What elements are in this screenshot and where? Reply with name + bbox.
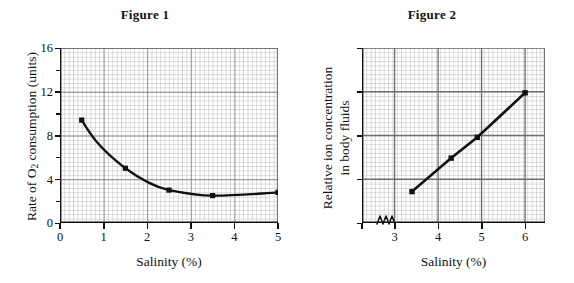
x-tickmark <box>147 223 149 229</box>
data-point <box>449 155 454 160</box>
figure-2: Figure 2 Relative ion concentration in b… <box>290 0 574 283</box>
figure-2-x-tick-5: 5 <box>478 230 484 245</box>
data-point <box>409 189 414 194</box>
data-point <box>275 190 278 195</box>
x-tickmark <box>361 223 363 229</box>
figure-1-y-tick-12: 12 <box>33 85 53 100</box>
y-label-part-2: consumption (units) <box>24 52 39 164</box>
y-tickmark <box>55 48 61 50</box>
figure-1-title: Figure 1 <box>0 7 290 23</box>
figure-2-x-tick-3: 3 <box>391 230 397 245</box>
figure-2-x-tick-4: 4 <box>435 230 441 245</box>
y-tickmark <box>56 70 61 71</box>
figure-2-plot-area <box>362 48 545 223</box>
figure-1-x-axis-label: Salinity (%) <box>60 254 278 270</box>
figure-2-graph-svg <box>362 48 545 223</box>
figure-2-y-axis-label: Relative ion concentration in body fluid… <box>320 48 354 228</box>
y-tickmark <box>357 48 363 50</box>
y-tickmark <box>55 179 61 181</box>
figure-1-y-tick-8: 8 <box>33 128 53 143</box>
figure-1-x-tick-4: 4 <box>231 230 237 245</box>
y-tickmark <box>55 135 61 137</box>
figure-1-y-tick-16: 16 <box>33 41 53 56</box>
figure-2-x-axis-label: Salinity (%) <box>362 254 545 270</box>
figure-pair-illustration: Figure 1 Rate of O2 consumption (units) <box>0 0 574 283</box>
figure-1-x-tick-1: 1 <box>100 230 106 245</box>
x-tickmark <box>394 223 396 229</box>
y-tickmark <box>357 135 363 137</box>
figure-2-title: Figure 2 <box>290 7 574 23</box>
x-tickmark <box>277 223 279 229</box>
figure-1-x-tick-5: 5 <box>275 230 281 245</box>
figure-1: Figure 1 Rate of O2 consumption (units) <box>0 0 290 283</box>
data-point <box>166 188 171 193</box>
x-tickmark <box>234 223 236 229</box>
figure-2-x-tick-6: 6 <box>522 230 528 245</box>
x-tickmark <box>481 223 483 229</box>
y-tickmark <box>357 91 363 93</box>
y-tickmark <box>56 157 61 158</box>
figure-1-x-tick-2: 2 <box>144 230 150 245</box>
x-tickmark <box>438 223 440 229</box>
y-label-line-2: in body fluids <box>337 101 352 176</box>
figure-1-x-tick-0: 0 <box>57 230 63 245</box>
x-tickmark <box>103 223 105 229</box>
figure-1-y-tick-4: 4 <box>33 172 53 187</box>
x-tickmark <box>190 223 192 229</box>
data-point <box>475 135 480 140</box>
y-tickmark <box>56 201 61 202</box>
figure-1-graph-svg <box>60 48 278 223</box>
y-tickmark <box>55 91 61 93</box>
y-label-subscript: 2 <box>30 164 40 169</box>
figure-1-plot-area <box>60 48 278 223</box>
x-tickmark <box>59 223 61 229</box>
data-point <box>522 90 527 95</box>
data-point <box>123 166 128 171</box>
y-tickmark <box>357 179 363 181</box>
y-label-line-1: Relative ion concentration <box>320 67 335 209</box>
figure-1-y-tick-0: 0 <box>33 216 53 231</box>
data-point <box>79 118 84 123</box>
figure-1-x-tick-3: 3 <box>188 230 194 245</box>
data-point <box>210 193 215 198</box>
x-tickmark <box>525 223 527 229</box>
y-tickmark <box>56 113 61 114</box>
